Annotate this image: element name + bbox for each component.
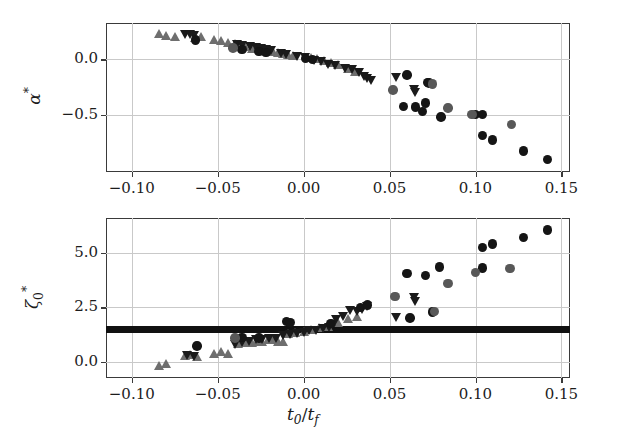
data-point-triangle-down bbox=[330, 61, 340, 70]
data-point-circle bbox=[285, 318, 295, 328]
x-tick-mark bbox=[476, 172, 477, 177]
data-point-circle bbox=[228, 43, 238, 53]
x-tick-mark bbox=[218, 378, 219, 383]
x-gridline bbox=[561, 23, 562, 172]
x-gridline bbox=[132, 218, 133, 378]
x-gridline bbox=[132, 23, 133, 172]
x-gridline bbox=[304, 218, 305, 378]
data-point-circle bbox=[363, 300, 373, 310]
y-axis-label: ζ0* bbox=[20, 268, 45, 328]
x-gridline bbox=[476, 218, 477, 378]
data-point-circle bbox=[435, 262, 445, 272]
x-tick-mark bbox=[304, 378, 305, 383]
y-tick-mark bbox=[101, 253, 106, 254]
data-point-triangle-down bbox=[189, 352, 199, 361]
x-tick-mark bbox=[561, 172, 562, 177]
x-tick-label: −0.10 bbox=[92, 385, 172, 403]
panel-zeta-0-star bbox=[106, 218, 570, 378]
x-tick-mark bbox=[132, 172, 133, 177]
x-tick-label: 0.00 bbox=[264, 179, 344, 197]
data-point-triangle-down bbox=[391, 73, 401, 82]
y-tick-label: 0.0 bbox=[40, 352, 98, 370]
x-axis-label: t0/tf bbox=[287, 404, 319, 427]
y-tick-label: 0.0 bbox=[40, 49, 98, 67]
x-tick-mark bbox=[561, 378, 562, 383]
y-tick-mark bbox=[101, 362, 106, 363]
data-point-triangle-up bbox=[223, 349, 233, 358]
data-point-circle bbox=[254, 333, 264, 343]
data-point-circle bbox=[326, 319, 336, 329]
data-point-circle bbox=[467, 110, 477, 120]
plot-frame bbox=[106, 23, 570, 172]
x-tick-label: 0.10 bbox=[435, 385, 515, 403]
y-gridline bbox=[106, 115, 570, 116]
data-point-triangle-up bbox=[161, 359, 171, 368]
data-point-circle bbox=[230, 333, 240, 343]
data-point-circle bbox=[191, 35, 201, 45]
y-axis-label: α* bbox=[22, 65, 44, 125]
data-point-circle bbox=[488, 135, 498, 145]
y-gridline bbox=[106, 253, 570, 254]
x-gridline bbox=[218, 23, 219, 172]
y-tick-mark bbox=[101, 307, 106, 308]
x-tick-label: 0.15 bbox=[521, 385, 601, 403]
x-tick-mark bbox=[218, 172, 219, 177]
y-gridline bbox=[106, 362, 570, 363]
x-tick-label: 0.05 bbox=[350, 179, 430, 197]
data-point-circle bbox=[543, 225, 553, 235]
x-tick-label: 0.05 bbox=[350, 385, 430, 403]
x-tick-mark bbox=[132, 378, 133, 383]
data-point-circle bbox=[418, 107, 428, 117]
y-tick-mark bbox=[101, 59, 106, 60]
data-point-circle bbox=[402, 70, 412, 80]
x-tick-mark bbox=[390, 378, 391, 383]
data-point-circle bbox=[478, 243, 488, 253]
data-point-triangle-down bbox=[410, 297, 420, 306]
data-point-triangle-up bbox=[170, 32, 180, 41]
data-point-circle bbox=[405, 313, 415, 323]
x-tick-label: −0.05 bbox=[178, 179, 258, 197]
x-tick-label: 0.10 bbox=[435, 179, 515, 197]
x-gridline bbox=[561, 218, 562, 378]
data-point-circle bbox=[436, 112, 446, 122]
y-tick-label: 2.5 bbox=[40, 297, 98, 315]
data-point-circle bbox=[399, 102, 409, 112]
data-point-circle bbox=[192, 341, 202, 351]
data-point-circle bbox=[237, 45, 247, 55]
data-point-circle bbox=[390, 292, 400, 302]
x-gridline bbox=[390, 23, 391, 172]
figure-root: t0/tf 0.0−0.5−0.10−0.050.000.050.100.15α… bbox=[0, 0, 623, 444]
y-tick-label: 5.0 bbox=[40, 243, 98, 261]
data-point-triangle-down bbox=[410, 88, 420, 97]
data-point-triangle-down bbox=[366, 76, 376, 85]
data-point-triangle-down bbox=[281, 50, 291, 59]
x-tick-label: 0.15 bbox=[521, 179, 601, 197]
x-tick-label: 0.00 bbox=[264, 385, 344, 403]
x-tick-mark bbox=[390, 172, 391, 177]
data-point-circle bbox=[428, 79, 438, 89]
data-point-circle bbox=[505, 264, 515, 274]
x-tick-label: −0.10 bbox=[92, 179, 172, 197]
data-point-circle bbox=[402, 269, 412, 279]
data-point-circle bbox=[519, 146, 529, 156]
data-point-circle bbox=[388, 85, 398, 95]
data-point-circle bbox=[443, 103, 453, 113]
y-gridline bbox=[106, 307, 570, 308]
x-tick-mark bbox=[476, 378, 477, 383]
panel-alpha-star bbox=[106, 23, 570, 172]
x-gridline bbox=[476, 23, 477, 172]
data-point-triangle-down bbox=[391, 313, 401, 322]
data-point-circle bbox=[443, 279, 453, 289]
x-gridline bbox=[304, 23, 305, 172]
x-tick-mark bbox=[304, 172, 305, 177]
data-point-circle bbox=[261, 48, 271, 58]
x-tick-label: −0.05 bbox=[178, 385, 258, 403]
y-tick-label: −0.5 bbox=[40, 105, 98, 123]
y-tick-mark bbox=[101, 115, 106, 116]
plot-frame bbox=[106, 218, 570, 378]
